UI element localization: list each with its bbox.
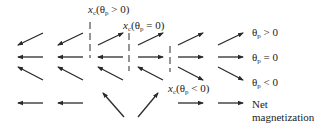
magnetization-domain-diagram: xc(θp > 0) xc(θp = 0) xc(θp < 0) θp > 0 …	[0, 0, 331, 127]
rel: < 0	[261, 76, 278, 88]
critical-label-positive: xc(θp > 0)	[88, 4, 129, 19]
arrow-down-left-icon	[58, 33, 83, 45]
arrow-up-left-icon	[58, 67, 83, 80]
arrow-net-up-right-icon	[138, 93, 158, 117]
arg: (θ	[96, 3, 105, 15]
arrow-down-right-icon	[218, 67, 243, 80]
arrow-down-left-icon	[18, 33, 43, 45]
arg: (θ	[176, 82, 185, 94]
net-label-line1: Net	[252, 98, 314, 111]
arrow-up-right-icon	[178, 33, 203, 45]
rel: < 0)	[188, 82, 209, 94]
arrow-down-right-icon	[178, 67, 203, 80]
rel: = 0	[261, 51, 278, 63]
rel: = 0)	[143, 19, 164, 31]
arrow-layer	[18, 33, 243, 117]
arrow-net-up-left-icon	[103, 93, 124, 117]
row-label-theta-zero: θp = 0	[252, 52, 278, 67]
arrow-up-right-icon	[218, 33, 243, 45]
arrow-up-left-icon	[98, 67, 123, 80]
arrow-up-right-icon	[98, 33, 123, 45]
row-label-theta-negative: θp < 0	[252, 77, 278, 92]
rel: > 0)	[108, 3, 129, 15]
critical-label-zero: xc(θp = 0)	[123, 20, 164, 35]
rel: > 0	[261, 26, 278, 38]
row-label-theta-positive: θp > 0	[252, 27, 278, 42]
row-label-net-magnetization: Net magnetization	[252, 98, 314, 124]
critical-label-negative: xc(θp < 0)	[168, 83, 209, 98]
net-label-line2: magnetization	[252, 111, 314, 124]
arrow-up-left-icon	[138, 67, 163, 80]
arg: (θ	[131, 19, 140, 31]
arrow-up-left-icon	[18, 67, 43, 80]
